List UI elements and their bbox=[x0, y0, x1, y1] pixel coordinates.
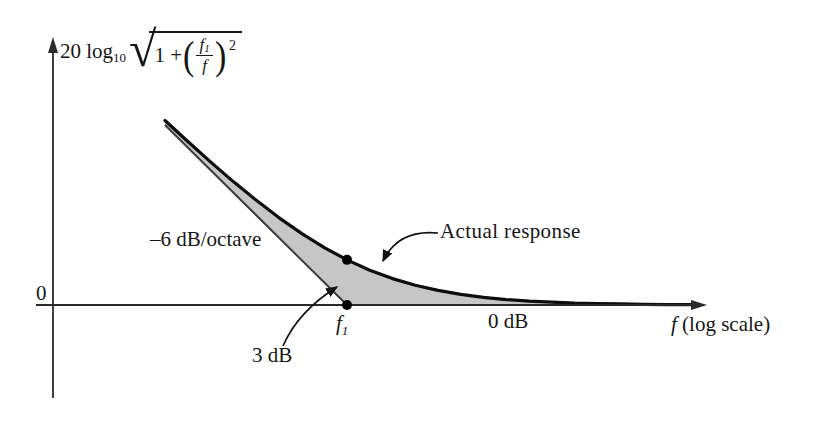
fraction-denominator: f bbox=[202, 56, 207, 75]
actual-response-curve bbox=[165, 121, 693, 305]
bode-plot-figure: 20 log10 √ 1 + ( f1 f ) 2 0 –6 dB/octave… bbox=[0, 0, 815, 423]
open-paren: ( bbox=[183, 40, 194, 71]
zero-db-label: 0 dB bbox=[488, 310, 528, 333]
origin-zero-label: 0 bbox=[36, 282, 47, 305]
f1-tick-label: f1 bbox=[336, 312, 348, 338]
x-axis-arrowhead-icon bbox=[691, 300, 707, 310]
slope-label: –6 dB/octave bbox=[150, 228, 261, 251]
radical-sign-icon: √ bbox=[129, 31, 156, 67]
marker-dot bbox=[342, 255, 352, 265]
radicand: 1 + ( f1 f ) 2 bbox=[149, 31, 242, 75]
radicand-pre: 1 + bbox=[155, 44, 183, 67]
marker-dot bbox=[342, 300, 352, 310]
close-paren: ) bbox=[215, 40, 226, 71]
ylabel-prefix: 20 log10 bbox=[60, 40, 126, 65]
three-db-arrow bbox=[283, 287, 337, 346]
y-axis-arrowhead-icon bbox=[48, 37, 58, 53]
three-db-label: 3 dB bbox=[252, 344, 292, 367]
x-axis-label: f (log scale) bbox=[671, 313, 770, 336]
asymptote-line bbox=[165, 125, 347, 305]
y-axis-label: 20 log10 √ 1 + ( f1 f ) 2 bbox=[60, 20, 242, 86]
actual-response-arrow bbox=[383, 233, 438, 261]
actual-response-label: Actual response bbox=[440, 220, 581, 243]
shaded-error-region bbox=[165, 121, 693, 306]
fraction-numerator: f1 bbox=[196, 36, 212, 57]
exponent: 2 bbox=[229, 38, 236, 53]
fraction-f1-over-f: f1 f bbox=[196, 36, 212, 75]
